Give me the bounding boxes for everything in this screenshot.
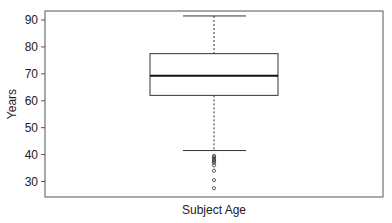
x-axis-label: Subject Age (182, 203, 246, 217)
y-axis: 30405060708090 (25, 13, 45, 189)
outlier-point (212, 169, 215, 172)
outlier-point (212, 187, 215, 190)
y-tick-label: 40 (25, 148, 39, 162)
box-series (150, 16, 278, 190)
y-tick-label: 90 (25, 13, 39, 27)
iqr-box (150, 54, 278, 96)
y-tick-label: 50 (25, 121, 39, 135)
y-axis-label: Years (5, 89, 19, 119)
y-tick-label: 70 (25, 67, 39, 81)
box-plot-chart: 30405060708090 Subject Age Years (0, 0, 392, 223)
y-tick-label: 30 (25, 175, 39, 189)
y-tick-label: 80 (25, 40, 39, 54)
y-tick-label: 60 (25, 94, 39, 108)
outlier-point (212, 179, 215, 182)
